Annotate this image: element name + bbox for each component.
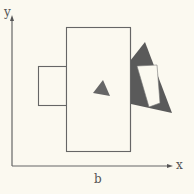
bottom-label: b — [94, 173, 102, 185]
x-axis-label: x — [176, 159, 183, 171]
small-rectangle — [39, 67, 67, 106]
y-axis-label: y — [4, 6, 11, 18]
x-axis-arrow-icon — [167, 164, 173, 168]
diagram-svg — [0, 0, 194, 194]
diagram-canvas: y x b — [0, 0, 194, 194]
